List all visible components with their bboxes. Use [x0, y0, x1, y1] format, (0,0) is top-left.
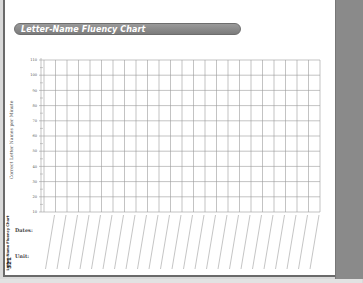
y-tick-label: 10	[32, 210, 37, 214]
y-tick-label: 60	[32, 134, 37, 138]
y-tick-label: 110	[30, 58, 38, 62]
entry-diagonal-lines	[46, 215, 320, 269]
chart-grid-lines	[39, 58, 320, 212]
y-tick-label: 30	[32, 180, 37, 184]
page-number: 321	[6, 257, 12, 269]
y-tick-label: 70	[32, 119, 37, 123]
y-tick-label: 20	[32, 195, 37, 199]
y-tick-label: 50	[32, 149, 37, 153]
unit-label: Unit:	[15, 253, 29, 259]
y-tick-label: 40	[32, 165, 37, 169]
y-tick-label: 90	[32, 89, 37, 93]
y-tick-label: 100	[30, 73, 38, 77]
y-tick-label: 80	[32, 104, 37, 108]
y-axis-title: Correct Letter Names per Minute	[9, 100, 14, 179]
dates-label: Dates:	[15, 227, 33, 233]
